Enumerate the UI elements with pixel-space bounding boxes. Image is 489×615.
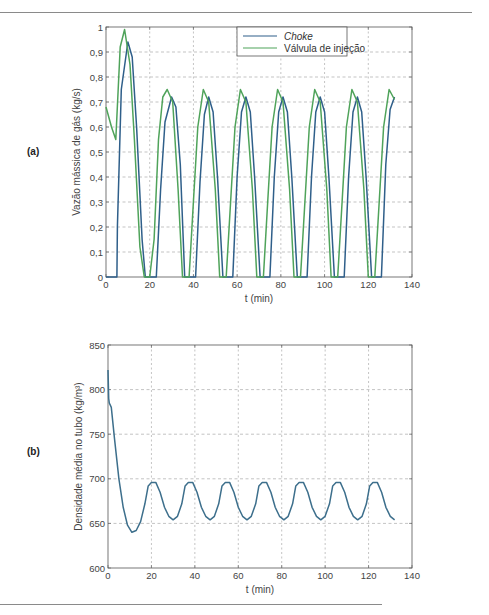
y-tick-label: 850 [89,340,105,351]
x-axis-label: t (min) [246,584,274,595]
x-tick-label: 60 [233,570,244,581]
y-tick-label: 600 [89,563,105,574]
y-tick-label: 700 [89,473,105,484]
y-tick-label: 650 [89,518,105,529]
x-tick-label: 100 [317,570,333,581]
x-tick-label: 80 [276,570,287,581]
y-axis-label: Densidade média no tubo (kg/m³) [73,382,84,530]
x-tick-label: 140 [404,570,420,581]
x-tick-label: 120 [361,570,377,581]
chart-b-density: 020406080100120140600650700750800850t (m… [0,0,489,615]
x-tick-label: 0 [105,570,110,581]
y-tick-label: 750 [89,429,105,440]
x-tick-label: 40 [190,570,201,581]
y-tick-label: 800 [89,384,105,395]
plot-frame [108,345,412,568]
x-tick-label: 20 [146,570,157,581]
series-line-0 [108,370,395,532]
